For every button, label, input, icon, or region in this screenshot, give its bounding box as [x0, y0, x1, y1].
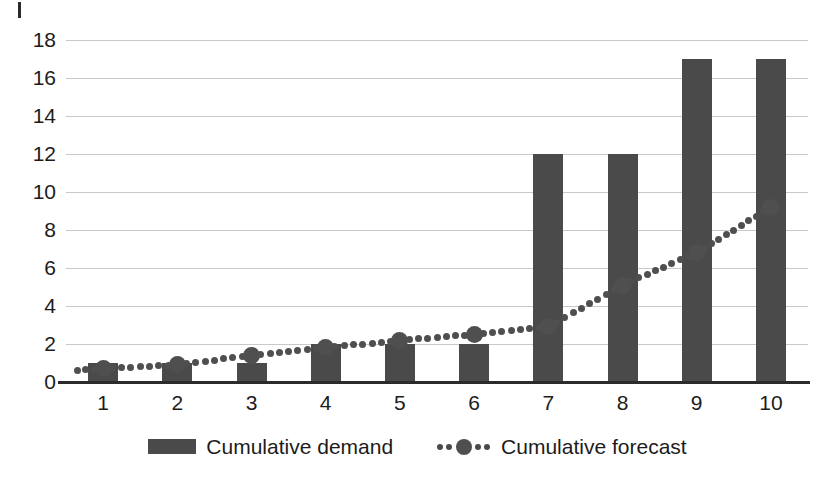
line-dot — [341, 342, 348, 349]
line-dot — [192, 359, 199, 366]
y-axis-tick-label: 8 — [44, 219, 56, 240]
data-point-marker — [243, 347, 260, 364]
line-dot — [738, 222, 745, 229]
dotted-line-marker-swatch-icon — [437, 438, 491, 455]
line-dot — [276, 349, 283, 356]
y-axis-tick-label: 12 — [33, 143, 56, 164]
line-dot — [677, 256, 684, 263]
line-dot — [146, 363, 153, 370]
line-dot — [594, 296, 601, 303]
line-dot — [202, 358, 209, 365]
line-dot — [498, 328, 505, 335]
line-dot — [668, 260, 675, 267]
line-dot — [561, 314, 568, 321]
line-dot — [570, 309, 577, 316]
bar-swatch-icon — [148, 439, 196, 454]
line-dot — [489, 329, 496, 336]
y-axis-tick-label: 4 — [44, 295, 56, 316]
legend-label-cumulative-demand: Cumulative demand — [206, 436, 393, 457]
line-dot — [285, 348, 292, 355]
x-axis-tick-label: 6 — [444, 392, 504, 413]
data-point-marker — [169, 356, 186, 373]
line-series-cumulative-forecast — [66, 40, 808, 382]
line-dot — [369, 340, 376, 347]
line-dot — [304, 346, 311, 353]
line-dot — [350, 341, 357, 348]
y-axis-tick-label: 18 — [33, 29, 56, 50]
line-dot — [155, 362, 162, 369]
line-dot — [220, 355, 227, 362]
x-axis-tick-label: 10 — [741, 392, 801, 413]
y-axis-tick-label: 0 — [44, 371, 56, 392]
chart-container: 024681012141618 12345678910 Cumulative d… — [0, 0, 835, 485]
line-dot — [517, 326, 524, 333]
data-point-marker — [391, 332, 408, 349]
line-dot — [660, 264, 667, 271]
legend-item-cumulative-demand: Cumulative demand — [148, 436, 393, 457]
line-dot — [359, 341, 366, 348]
x-axis-tick-label: 9 — [667, 392, 727, 413]
y-axis-tick-label: 16 — [33, 67, 56, 88]
line-dot — [526, 325, 533, 332]
x-axis-tick-label: 8 — [593, 392, 653, 413]
data-point-marker — [540, 318, 557, 335]
line-dot — [652, 267, 659, 274]
x-axis-tick-label: 3 — [222, 392, 282, 413]
line-dot — [452, 332, 459, 339]
line-dot — [82, 366, 89, 373]
x-axis-tick-label: 7 — [518, 392, 578, 413]
y-axis-tick-label: 6 — [44, 257, 56, 278]
line-dot — [745, 217, 752, 224]
x-axis-tick-label: 5 — [370, 392, 430, 413]
data-point-marker — [762, 199, 779, 216]
x-axis-line — [58, 381, 810, 384]
data-point-marker — [95, 360, 112, 377]
line-dot — [578, 305, 585, 312]
line-dot — [730, 227, 737, 234]
line-dot — [424, 335, 431, 342]
line-dot — [137, 363, 144, 370]
y-axis-labels: 024681012141618 — [0, 0, 56, 485]
line-dot — [644, 271, 651, 278]
x-axis-tick-label: 1 — [73, 392, 133, 413]
y-axis-tick-label: 14 — [33, 105, 56, 126]
line-dot — [508, 327, 515, 334]
data-point-marker — [614, 277, 631, 294]
y-axis-tick-label: 10 — [33, 181, 56, 202]
line-dot — [267, 350, 274, 357]
x-axis-tick-label: 4 — [296, 392, 356, 413]
line-dot — [118, 364, 125, 371]
legend-label-cumulative-forecast: Cumulative forecast — [501, 436, 687, 457]
line-dot — [603, 291, 610, 298]
data-point-marker — [466, 326, 483, 343]
line-dot — [294, 347, 301, 354]
line-dot — [127, 364, 134, 371]
line-dot — [443, 333, 450, 340]
legend-item-cumulative-forecast: Cumulative forecast — [437, 436, 687, 457]
x-axis-tick-label: 2 — [147, 392, 207, 413]
line-dot — [211, 357, 218, 364]
line-dot — [723, 231, 730, 238]
line-dot — [708, 240, 715, 247]
line-dot — [586, 300, 593, 307]
chart-legend: Cumulative demand Cumulative forecast — [0, 436, 835, 457]
line-dot — [635, 274, 642, 281]
line-dot — [753, 213, 760, 220]
line-dot — [378, 339, 385, 346]
line-dot — [434, 334, 441, 341]
data-point-marker — [317, 339, 334, 356]
line-dot — [415, 335, 422, 342]
line-dot — [229, 354, 236, 361]
data-point-marker — [688, 244, 705, 261]
line-dot — [715, 236, 722, 243]
line-dot — [74, 367, 81, 374]
y-axis-tick-label: 2 — [44, 333, 56, 354]
